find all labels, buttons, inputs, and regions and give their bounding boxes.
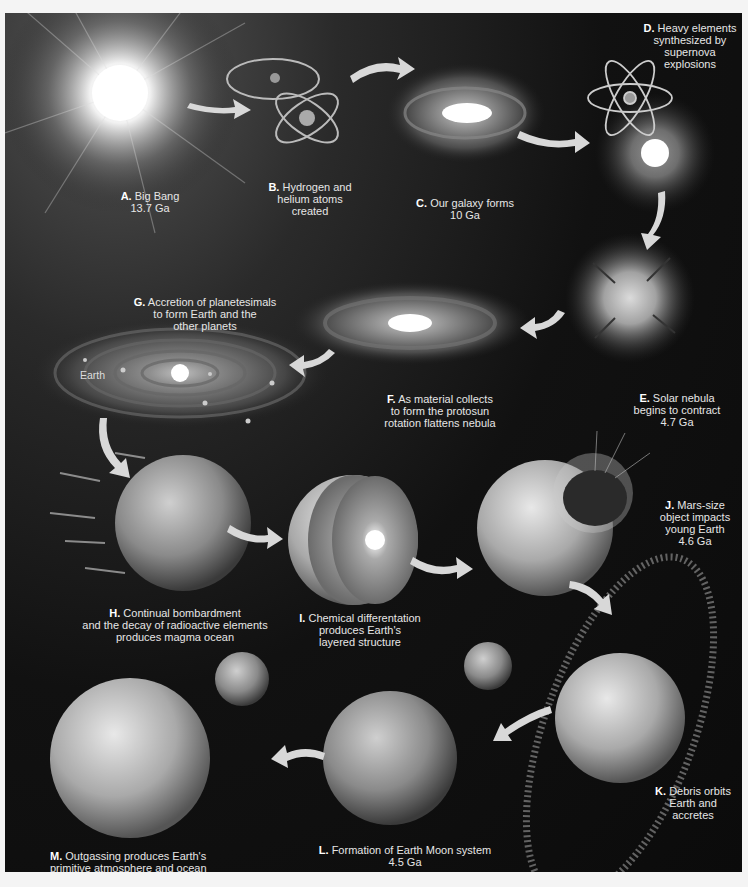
arrow-j-to-k-icon	[569, 581, 612, 615]
stage-e-label: E. Solar nebula begins to contract4.7 Ga	[617, 380, 737, 428]
stage-b-label: B. Hydrogen and helium atoms created	[245, 169, 375, 217]
supernova-icon	[588, 55, 715, 213]
stage-j-label: J. Mars-size object impacts young Earth4…	[650, 487, 740, 547]
layered-earth-icon	[288, 475, 418, 605]
stage-a-label: A. Big Bang13.7 Ga	[105, 178, 195, 214]
stage-d-label: D. Heavy elements synthesized by superno…	[635, 13, 742, 70]
atoms-icon	[227, 59, 346, 152]
arrow-i-to-j-icon	[410, 557, 473, 579]
stage-f-label: F. As material collects to form the prot…	[370, 381, 510, 429]
stage-m-label: M. Outgassing produces Earth's primitive…	[50, 838, 225, 872]
earth-moon-system-icon	[323, 642, 512, 825]
galaxy-icon	[385, 63, 545, 163]
formation-of-earth-figure: A. Big Bang13.7 Ga B. Hydrogen and heliu…	[5, 13, 742, 872]
earth-tag: Earth	[80, 369, 105, 381]
arrow-l-to-m-icon	[271, 745, 325, 768]
illustration	[5, 13, 742, 872]
stage-h-label: H. Continual bombardment and the decay o…	[60, 595, 290, 643]
solar-nebula-icon	[565, 233, 695, 363]
outgassing-earth-icon	[50, 652, 269, 838]
arrow-b-to-c-icon	[350, 57, 415, 83]
stage-k-label: K. Debris orbits Earth and accretes	[648, 773, 738, 821]
stage-c-label: C. Our galaxy forms10 Ga	[400, 185, 530, 221]
magma-ocean-planet-icon	[50, 453, 251, 591]
giant-impact-icon	[477, 431, 650, 596]
solar-system-icon	[30, 318, 330, 428]
arrow-g-to-h-icon	[99, 418, 130, 478]
stage-l-label: L. Formation of Earth Moon system4.5 Ga	[305, 832, 505, 868]
stage-i-label: I. Chemical differentation produces Eart…	[290, 600, 430, 648]
stage-g-label: G. Accretion of planetesimals to form Ea…	[125, 284, 285, 332]
